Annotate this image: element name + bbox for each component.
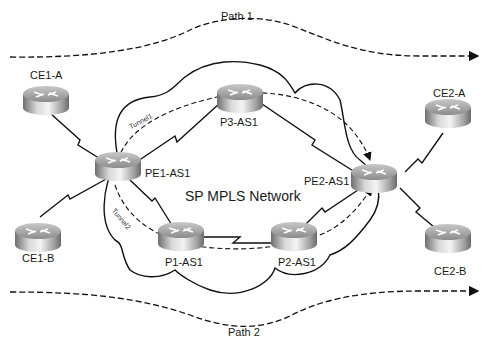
router-ce2-a — [425, 99, 471, 128]
label-ce2-b: CE2-B — [434, 266, 466, 277]
label-ce1-b: CE1-B — [22, 253, 54, 264]
router-p2-as1 — [271, 222, 317, 251]
link-p2-pe2 — [305, 190, 358, 225]
link-pe2-ce2b — [400, 188, 440, 232]
label-ce2-a: CE2-A — [433, 88, 465, 99]
network-title: SP MPLS Network — [185, 189, 301, 203]
label-p3-as1: P3-AS1 — [220, 117, 258, 128]
diagram-lines — [0, 0, 483, 348]
label-pe2-as1: PE2-AS1 — [304, 176, 349, 187]
path-1-arrow — [10, 18, 478, 57]
router-ce2-b — [425, 224, 471, 253]
link-p3-pe2 — [262, 104, 355, 172]
router-ce1-b — [15, 223, 61, 252]
router-pe2-as1 — [351, 164, 397, 193]
link-ce1b-pe1 — [40, 178, 108, 217]
label-p2-as1: P2-AS1 — [278, 257, 316, 268]
path-2-arrow — [10, 291, 478, 326]
path-2-label: Path 2 — [228, 327, 260, 338]
label-ce1-a: CE1-A — [30, 70, 62, 81]
mpls-network-diagram: Path 1 Path 2 SP MPLS Network Tunnel1 Tu… — [0, 0, 483, 348]
router-p3-as1 — [217, 84, 263, 113]
link-pe2-ce2a — [405, 133, 443, 172]
label-pe1-as1: PE1-AS1 — [145, 168, 190, 179]
router-ce1-a — [23, 86, 69, 115]
label-p1-as1: P1-AS1 — [165, 257, 203, 268]
link-p1-p2 — [203, 237, 276, 243]
router-pe1-as1 — [95, 152, 141, 181]
link-pe1-p1 — [130, 180, 175, 230]
router-p1-as1 — [158, 222, 204, 251]
path-1-label: Path 1 — [221, 11, 253, 22]
